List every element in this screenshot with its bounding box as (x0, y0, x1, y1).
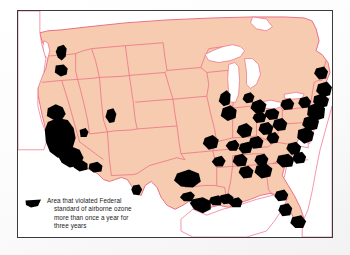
legend-text-block: Area that violated Federal standard of a… (47, 197, 132, 231)
map-legend: Area that violated Federal standard of a… (25, 197, 157, 231)
map-frame: Area that violated Federal standard of a… (17, 10, 333, 238)
legend-line-3: more than once a year for (47, 214, 132, 223)
black-area-swatch-icon (25, 199, 42, 208)
figure-root: Area that violated Federal standard of a… (0, 0, 350, 255)
legend-line-4: three years (47, 222, 132, 231)
legend-line-1: Area that violated Federal (47, 197, 132, 206)
legend-line-2: standard of airborne ozone (47, 205, 132, 214)
